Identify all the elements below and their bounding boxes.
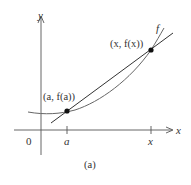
secant-line-diagram: y x 0 a x f (a, f(a)) (x, f(x)) (a) [0, 0, 191, 185]
tick-x-label: x [147, 135, 153, 147]
point-label-x: (x, f(x)) [110, 38, 144, 50]
y-axis-label: y [37, 9, 43, 21]
x-axis-label: x [175, 124, 181, 136]
point-a-fa [64, 108, 69, 113]
x-axis [14, 127, 173, 133]
y-axis [38, 16, 44, 155]
origin-label: 0 [26, 135, 32, 147]
point-x-fx [148, 47, 153, 52]
curve-label-f: f [156, 22, 161, 34]
point-label-a: (a, f(a)) [43, 91, 76, 103]
figure-caption: (a) [84, 159, 96, 171]
tick-a-label: a [64, 135, 70, 147]
